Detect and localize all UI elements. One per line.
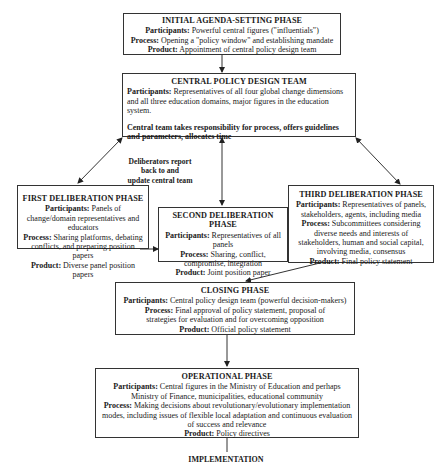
third-deliberation-box: THIRD DELIBERATION PHASE Participants: R…: [288, 185, 434, 263]
participants-label: Participants:: [145, 26, 189, 35]
initial-product: Appointment of central policy design tea…: [179, 45, 316, 54]
implementation-label: IMPLEMENTATION: [4, 455, 444, 464]
note-line: back to and: [120, 166, 200, 175]
participants-label: Participants:: [123, 296, 167, 305]
closing-title: CLOSING PHASE: [120, 286, 350, 295]
central-responsibility: Central team takes responsibility for pr…: [127, 123, 351, 142]
second-deliberation-box: SECOND DELIBERATION PHASE Participants: …: [158, 207, 288, 262]
note-line: update central team: [120, 176, 200, 185]
process-label: Process:: [180, 250, 208, 259]
closing-process: Final approval of policy statement, prop…: [146, 306, 325, 324]
initial-participants: Powerful central figures ("influentials"…: [192, 26, 319, 35]
operational-product: Policy directives: [216, 429, 270, 438]
participants-label: Participants:: [165, 231, 209, 240]
process-label: Process:: [23, 233, 51, 242]
participants-label: Participants:: [45, 204, 89, 213]
operational-participants: Central figures in the Ministry of Educa…: [131, 382, 341, 400]
participants-label: Participants:: [113, 382, 157, 391]
first-title: FIRST DELIBERATION PHASE: [22, 194, 144, 203]
closing-participants: Central policy design team (powerful dec…: [170, 296, 347, 305]
initial-agenda-setting-box: INITIAL AGENDA-SETTING PHASE Participant…: [123, 13, 341, 55]
initial-process: Opening a "policy window" and establishi…: [161, 36, 333, 45]
product-label: Product:: [31, 261, 61, 270]
closing-phase-box: CLOSING PHASE Participants: Central poli…: [115, 282, 355, 335]
product-label: Product:: [148, 45, 178, 54]
deliberators-report-note: Deliberators report back to and update c…: [120, 157, 200, 185]
central-policy-design-team-box: CENTRAL POLICY DESIGN TEAM Participants:…: [122, 73, 356, 137]
second-product: Joint position paper: [207, 268, 270, 277]
process-label: Process:: [104, 401, 132, 410]
product-label: Product:: [184, 429, 214, 438]
operational-title: OPERATIONAL PHASE: [100, 372, 354, 381]
product-label: Product:: [309, 257, 339, 266]
second-participants: Representatives of all panels: [212, 231, 281, 249]
third-title: THIRD DELIBERATION PHASE: [293, 190, 429, 199]
product-label: Product:: [179, 325, 209, 334]
process-label: Process:: [131, 36, 159, 45]
central-title: CENTRAL POLICY DESIGN TEAM: [127, 77, 351, 86]
second-title: SECOND DELIBERATION PHASE: [163, 211, 283, 230]
product-label: Product:: [175, 268, 205, 277]
operational-phase-box: OPERATIONAL PHASE Participants: Central …: [95, 368, 359, 438]
participants-label: Participants:: [127, 87, 171, 96]
initial-title: INITIAL AGENDA-SETTING PHASE: [128, 16, 336, 25]
process-label: Process:: [145, 306, 173, 315]
first-product: Diverse panel position papers: [63, 261, 135, 279]
participants-label: Participants:: [296, 200, 340, 209]
closing-product: Official policy statement: [211, 325, 290, 334]
operational-process: Making decisions about revolutionary/evo…: [102, 401, 352, 429]
process-label: Process:: [302, 219, 330, 228]
first-deliberation-box: FIRST DELIBERATION PHASE Participants: P…: [17, 185, 149, 249]
third-product: Final policy statement: [341, 257, 412, 266]
note-line: Deliberators report: [120, 157, 200, 166]
